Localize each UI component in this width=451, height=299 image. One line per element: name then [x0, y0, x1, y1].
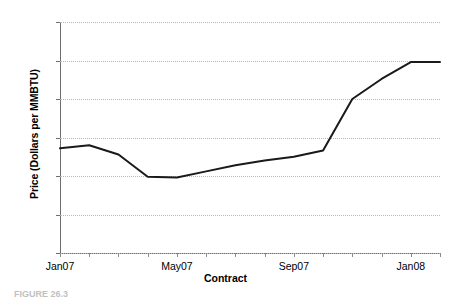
- price-line-series: [60, 62, 440, 177]
- price-series-chart: [60, 22, 440, 253]
- x-tick-label: Sep07: [259, 261, 329, 272]
- x-tick-mark: [206, 253, 207, 257]
- figure-container: Price (Dollars per MMBTU) Jan07May07Sep0…: [0, 0, 451, 299]
- x-tick-mark: [294, 253, 295, 257]
- x-tick-mark: [323, 253, 324, 257]
- gridline: [60, 253, 440, 254]
- figure-caption: FIGURE 26.3: [14, 289, 434, 299]
- x-tick-label: May07: [142, 261, 212, 272]
- x-tick-mark: [60, 253, 61, 257]
- x-tick-label: Jan08: [376, 261, 446, 272]
- x-tick-mark: [177, 253, 178, 257]
- x-tick-mark: [440, 253, 441, 257]
- x-tick-mark: [352, 253, 353, 257]
- x-tick-mark: [118, 253, 119, 257]
- x-tick-mark: [265, 253, 266, 257]
- y-axis-title: Price (Dollars per MMBTU): [28, 34, 40, 234]
- x-tick-mark: [382, 253, 383, 257]
- x-tick-mark: [411, 253, 412, 257]
- x-axis-title: Contract: [0, 272, 451, 284]
- plot-frame: Jan07May07Sep07Jan08: [60, 22, 440, 253]
- x-tick-mark: [148, 253, 149, 257]
- x-tick-mark: [89, 253, 90, 257]
- x-tick-mark: [235, 253, 236, 257]
- plot-area: Jan07May07Sep07Jan08: [60, 22, 440, 253]
- x-tick-label: Jan07: [25, 261, 95, 272]
